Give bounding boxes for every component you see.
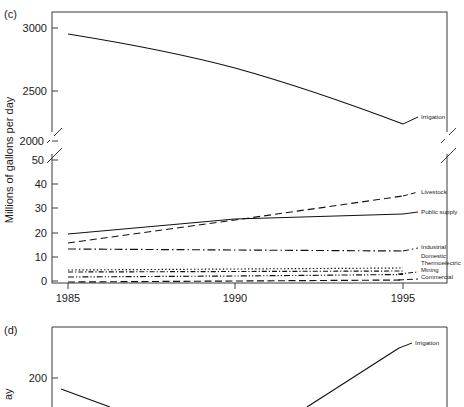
series-label-thermoelectric: Thermoelectric: [421, 260, 461, 266]
panel-d-series-line-descending: [61, 389, 110, 407]
y-tick-2500: 2500: [23, 85, 47, 97]
panel-c-plot-frame: [52, 12, 447, 283]
leader-commercial: [398, 279, 418, 280]
series-line-irrigation: [68, 34, 403, 124]
y-tick-30: 30: [35, 202, 47, 214]
y-tick-50: 50: [32, 154, 44, 166]
series-line-domestic: [68, 268, 403, 270]
panel-d: (d) ay 200 Irrigation: [0, 318, 464, 407]
panel-c-x-ticks: 1985 1990 1995: [56, 283, 415, 304]
panel-c-axis-break-right: [441, 128, 456, 163]
y-tick-10: 10: [35, 251, 47, 263]
panel-d-series-line-irrigation: [307, 348, 399, 407]
y-tick-3000: 3000: [23, 22, 47, 34]
series-label-mining: Mining: [421, 267, 439, 273]
panel-c-y-ticks-lower: 50 40 30 20 10 0: [32, 154, 58, 287]
leader-livestock: [403, 192, 418, 196]
panel-d-svg: (d) ay 200 Irrigation: [0, 318, 464, 407]
series-label-irrigation: Irrigation: [421, 113, 446, 120]
panel-c: (c) Millions of gallons per day 3000 250…: [0, 0, 464, 310]
panel-c-axis-break-left: [47, 128, 62, 163]
y-tick-0: 0: [41, 275, 47, 287]
x-tick-1990: 1990: [223, 292, 247, 304]
panel-c-y-axis-title: Millions of gallons per day: [3, 96, 15, 223]
y-tick-40: 40: [35, 178, 47, 190]
panel-d-tag: (d): [4, 324, 17, 336]
leader-public-supply: [403, 212, 418, 214]
panel-d-y-axis-title: ay: [2, 388, 14, 400]
series-label-livestock: Livestock: [421, 188, 448, 195]
series-label-industrial: Industrial: [421, 243, 446, 250]
x-tick-1995: 1995: [391, 292, 415, 304]
series-label-domestic: Domestic: [421, 253, 446, 259]
y-tick-20: 20: [35, 227, 47, 239]
x-tick-1985: 1985: [56, 292, 80, 304]
series-label-commercial: Commercial: [421, 274, 453, 280]
leader-industrial: [403, 248, 418, 251]
series-line-public-supply: [68, 214, 403, 234]
panel-d-y-ticks: 200: [29, 372, 58, 384]
series-line-industrial: [68, 249, 403, 251]
panel-d-y-tick-200: 200: [29, 372, 47, 384]
series-label-public-supply: Public supply: [421, 208, 458, 215]
panel-c-svg: (c) Millions of gallons per day 3000 250…: [0, 0, 464, 310]
panel-c-tag: (c): [4, 8, 17, 20]
y-tick-2000: 2000: [20, 135, 44, 147]
series-line-mining: [68, 275, 403, 278]
panel-d-series-label-irrigation: Irrigation: [415, 339, 440, 346]
series-line-thermoelectric: [68, 271, 403, 272]
series-line-commercial: [68, 280, 403, 282]
panel-d-leader-irrigation: [399, 343, 412, 348]
leader-irrigation: [403, 117, 418, 124]
leader-mining: [398, 272, 418, 274]
